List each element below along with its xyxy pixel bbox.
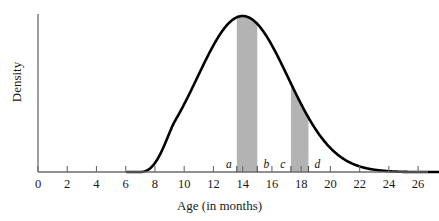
x-tick-label-4: 4 bbox=[81, 177, 111, 191]
x-tick-label-10: 10 bbox=[169, 177, 199, 191]
x-tick-label-12: 12 bbox=[198, 177, 228, 191]
density-chart: 02468101214161820222426 abcd Age (in mon… bbox=[0, 0, 439, 221]
y-axis-title: Density bbox=[9, 37, 25, 127]
x-tick-label-20: 20 bbox=[315, 177, 345, 191]
x-tick-label-26: 26 bbox=[403, 177, 433, 191]
band-label-c: c bbox=[276, 158, 290, 170]
x-axis-title: Age (in months) bbox=[0, 198, 439, 214]
band-label-b: b bbox=[259, 158, 273, 170]
x-tick-label-24: 24 bbox=[374, 177, 404, 191]
x-tick-label-14: 14 bbox=[228, 177, 258, 191]
x-tick-label-22: 22 bbox=[345, 177, 375, 191]
x-tick-label-0: 0 bbox=[23, 177, 53, 191]
x-tick-label-6: 6 bbox=[111, 177, 141, 191]
shaded-region-ab bbox=[237, 16, 257, 172]
density-curve bbox=[127, 16, 439, 172]
axis-lines-group bbox=[38, 14, 428, 172]
shaded-bands-group bbox=[237, 16, 309, 172]
x-tick-label-8: 8 bbox=[140, 177, 170, 191]
x-tick-label-16: 16 bbox=[257, 177, 287, 191]
x-tick-label-18: 18 bbox=[286, 177, 316, 191]
x-tick-label-2: 2 bbox=[52, 177, 82, 191]
band-label-a: a bbox=[222, 158, 236, 170]
band-label-d: d bbox=[310, 158, 324, 170]
shaded-region-cd bbox=[291, 83, 309, 172]
